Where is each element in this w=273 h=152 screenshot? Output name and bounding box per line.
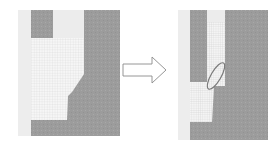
light-strip — [18, 10, 31, 136]
panel-after — [178, 10, 268, 140]
panel-before — [18, 10, 120, 136]
light-strip — [178, 10, 190, 140]
arrow-right-icon — [123, 57, 166, 83]
top-light-block — [207, 10, 225, 22]
transition-arrow — [123, 57, 166, 83]
top-left-block — [31, 10, 53, 38]
left-solid-column — [190, 10, 207, 82]
mesh-deformation-figure — [0, 0, 273, 152]
lower-mesh-region — [190, 82, 214, 122]
top-light-block — [53, 10, 84, 38]
